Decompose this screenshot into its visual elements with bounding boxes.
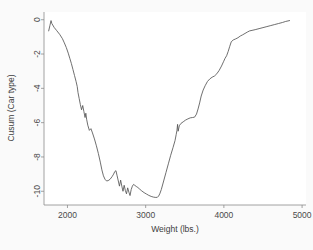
y-tick-label: -10 — [32, 185, 42, 198]
y-tick-label: -2 — [32, 50, 42, 58]
x-axis: 2000300040005000 — [44, 205, 312, 220]
cusum-line-chart: 0-2-4-6-8-10 2000300040005000 Weight (lb… — [0, 0, 313, 250]
y-axis: 0-2-4-6-8-10 — [32, 12, 44, 205]
x-tick-label: 2000 — [58, 210, 77, 220]
y-axis-title: Cusum (Car type) — [6, 74, 16, 141]
chart-figure: 0-2-4-6-8-10 2000300040005000 Weight (lb… — [0, 0, 313, 250]
x-tick-label: 4000 — [214, 210, 233, 220]
x-tick-group: 2000300040005000 — [58, 205, 312, 220]
x-tick-label: 5000 — [293, 210, 312, 220]
y-tick-label: 0 — [32, 17, 42, 22]
y-tick-label: -4 — [32, 84, 42, 92]
x-axis-title: Weight (lbs.) — [151, 224, 199, 234]
y-tick-label: -8 — [32, 153, 42, 161]
x-tick-label: 3000 — [136, 210, 155, 220]
y-tick-group: 0-2-4-6-8-10 — [32, 17, 44, 197]
y-tick-label: -6 — [32, 119, 42, 127]
